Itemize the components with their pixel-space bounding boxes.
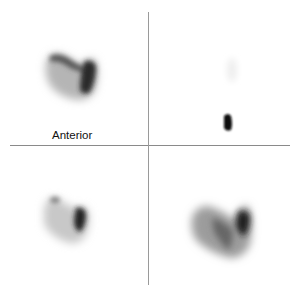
panel-bottom-right — [152, 146, 304, 291]
panel-bottom-left — [0, 146, 152, 291]
vertical-divider — [148, 12, 149, 285]
panel-anterior-marker: Anterior Marker 128 x 128 — [152, 0, 304, 146]
marker-image — [152, 0, 304, 146]
thyroid-scan-image-bottom-right — [152, 146, 304, 291]
label-anterior: Anterior — [52, 129, 92, 141]
thyroid-scan-image-anterior — [0, 0, 152, 146]
horizontal-divider — [10, 145, 290, 146]
panel-anterior: Anterior — [0, 0, 152, 146]
thyroid-scan-image-bottom-left — [0, 146, 152, 291]
